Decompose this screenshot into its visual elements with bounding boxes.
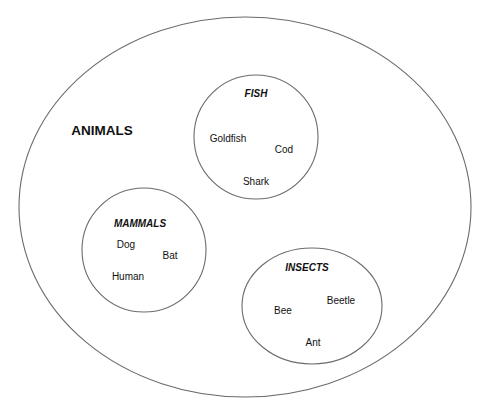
mammals-set-boundary xyxy=(82,188,206,312)
animals-set-label: ANIMALS xyxy=(71,124,133,138)
insects-member-beetle: Beetle xyxy=(327,296,355,306)
animals-set-boundary xyxy=(19,17,471,397)
insects-member-bee: Bee xyxy=(274,306,292,316)
mammals-member-human: Human xyxy=(112,272,144,282)
insects-member-ant: Ant xyxy=(305,338,320,348)
insects-set-label: INSECTS xyxy=(285,263,328,273)
fish-set-label: FISH xyxy=(245,89,268,99)
fish-member-goldfish: Goldfish xyxy=(210,134,247,144)
mammals-member-bat: Bat xyxy=(162,251,177,261)
mammals-set-label: MAMMALS xyxy=(114,219,166,229)
diagram-canvas xyxy=(0,0,483,409)
fish-member-cod: Cod xyxy=(275,145,293,155)
mammals-member-dog: Dog xyxy=(117,240,135,250)
fish-member-shark: Shark xyxy=(243,177,269,187)
